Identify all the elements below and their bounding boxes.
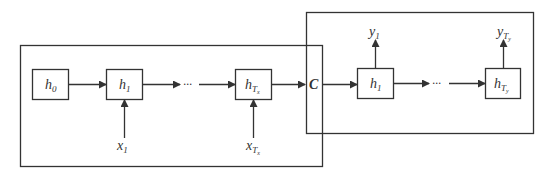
encoder-node-hTx: hTx: [236, 70, 272, 100]
seq2seq-diagram: h0 h1 hTx ··· x1 xTx C h1 hTy ··· y1 yTy: [0, 0, 551, 176]
encoder-frame: [21, 46, 323, 167]
output-y1: y1: [367, 24, 380, 41]
decoder-node-hTy: hTy: [486, 69, 521, 99]
encoder-node-h1: h1: [107, 70, 143, 100]
context-vector-C: C: [309, 77, 319, 92]
input-xTx: xTx: [245, 138, 260, 156]
decoder-node-h1: h1: [358, 69, 394, 99]
encoder-node-h0: h0: [33, 70, 69, 100]
input-x1: x1: [116, 138, 128, 155]
encoder-ellipsis: ···: [183, 77, 192, 91]
output-yTy: yTy: [495, 24, 511, 42]
decoder-ellipsis: ···: [432, 76, 441, 90]
